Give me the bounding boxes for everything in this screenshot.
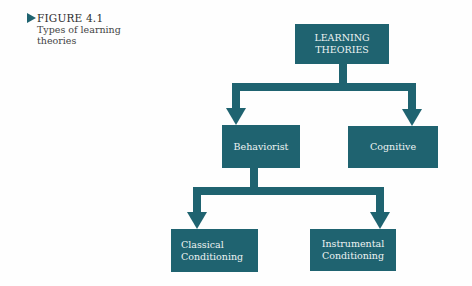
classical-label-line1: Classical (181, 239, 224, 251)
instrumental-label-line1: Instrumental (322, 238, 385, 250)
triangle-marker-icon (27, 13, 36, 23)
instrumental-conditioning-box: Instrumental Conditioning (310, 229, 396, 271)
arrow-down-icon (187, 212, 207, 229)
cognitive-label: Cognitive (370, 141, 416, 153)
root-label-line1: LEARNING (314, 32, 369, 44)
figure-label: FIGURE 4.1 (27, 12, 137, 24)
arrow-down-icon (226, 108, 246, 125)
figure-title: Types of learning theories (37, 24, 137, 46)
classical-conditioning-box: Classical Conditioning (171, 229, 258, 272)
learning-theories-box: LEARNING THEORIES (295, 24, 389, 64)
connector-behaviorist-horizontal (193, 187, 384, 195)
behaviorist-box: Behaviorist (222, 125, 300, 168)
figure-caption: FIGURE 4.1 Types of learning theories (27, 12, 137, 46)
arrow-down-icon (370, 212, 390, 229)
figure-number: FIGURE 4.1 (37, 12, 103, 24)
connector-root-stem (339, 63, 347, 85)
connector-behaviorist-stem (250, 167, 258, 189)
behaviorist-label: Behaviorist (234, 141, 289, 153)
connector-right-drop (408, 83, 416, 110)
cognitive-box: Cognitive (348, 126, 438, 168)
root-label-line2: THEORIES (315, 44, 369, 56)
instrumental-label-line2: Conditioning (322, 250, 384, 262)
connector-left-drop (232, 83, 240, 109)
connector-instrumental-drop (376, 187, 384, 213)
connector-root-horizontal (232, 83, 416, 91)
arrow-down-icon (402, 109, 422, 126)
classical-label-line2: Conditioning (181, 251, 243, 263)
connector-classical-drop (193, 187, 201, 213)
